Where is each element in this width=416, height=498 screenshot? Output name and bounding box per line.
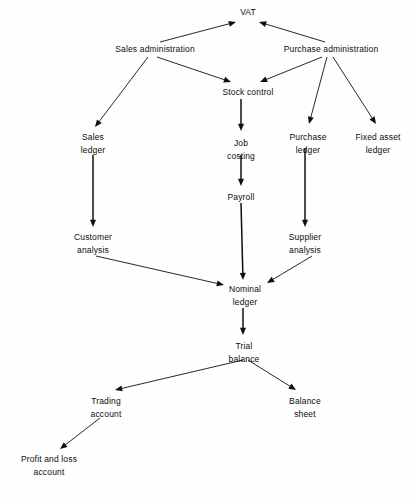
node-label-secondary: account xyxy=(21,466,77,479)
edge-sales-ledger-to-customer-analysis xyxy=(90,155,96,227)
node-fixed-asset-ledger[interactable]: Fixed assetledger xyxy=(355,131,400,156)
arrowhead-icon xyxy=(259,21,267,27)
edge-sales-admin-to-stock-control xyxy=(157,57,231,83)
node-label-primary: Purchase xyxy=(289,132,326,142)
edge-line xyxy=(333,57,373,119)
arrowhead-icon xyxy=(223,77,231,83)
arrowhead-icon xyxy=(302,220,308,227)
arrowhead-icon xyxy=(228,21,236,27)
arrowhead-icon xyxy=(240,328,246,335)
arrowhead-icon xyxy=(370,116,376,124)
arrowhead-icon xyxy=(288,384,296,390)
node-label-primary: Supplier xyxy=(289,232,321,242)
node-label-primary: Job xyxy=(234,138,248,148)
edge-line xyxy=(157,57,225,80)
arrowhead-icon xyxy=(95,119,102,127)
edge-line xyxy=(96,256,218,284)
node-label-secondary: account xyxy=(91,408,122,421)
edge-purchase-admin-to-vat xyxy=(259,21,325,42)
node-vat[interactable]: VAT xyxy=(240,6,256,19)
edge-trading-account-to-profit-loss xyxy=(60,418,100,449)
node-profit-loss-account[interactable]: Profit and lossaccount xyxy=(21,453,77,478)
edge-line xyxy=(160,24,230,42)
edge-trial-balance-to-trading-account xyxy=(115,360,243,391)
edge-line xyxy=(266,57,322,80)
node-purchase-ledger[interactable]: Purchaseledger xyxy=(289,131,326,156)
node-label-secondary: ledger xyxy=(229,296,261,309)
node-label-primary: Profit and loss xyxy=(21,454,77,464)
arrowhead-icon xyxy=(115,385,123,391)
edge-line xyxy=(241,203,243,274)
node-label-primary: Nominal xyxy=(229,284,261,294)
node-label-primary: Purchase administration xyxy=(284,44,379,54)
node-label-primary: Trial xyxy=(236,341,253,351)
node-label-primary: Sales administration xyxy=(115,44,195,54)
node-trial-balance[interactable]: Trialbalance xyxy=(229,340,260,365)
edge-customer-analysis-to-nominal-ledger xyxy=(96,256,224,286)
edge-supplier-analysis-to-nominal-ledger xyxy=(267,256,312,283)
node-purchase-admin[interactable]: Purchase administration xyxy=(284,43,379,56)
node-supplier-analysis[interactable]: Supplieranalysis xyxy=(289,231,321,256)
node-label-primary: Payroll xyxy=(227,192,254,202)
flow-diagram: VATSales administrationPurchase administ… xyxy=(0,0,416,498)
edge-line xyxy=(311,57,327,118)
edge-line xyxy=(273,256,312,280)
arrowhead-icon xyxy=(238,124,244,131)
node-label-secondary: ledger xyxy=(289,144,326,157)
arrowhead-icon xyxy=(240,273,246,280)
edge-purchase-admin-to-stock-control xyxy=(260,57,322,82)
node-label-primary: Fixed asset xyxy=(355,132,400,142)
diagram-edges-layer xyxy=(0,0,416,498)
node-sales-admin[interactable]: Sales administration xyxy=(115,43,195,56)
arrowhead-icon xyxy=(216,280,224,286)
node-label-secondary: analysis xyxy=(74,244,112,257)
node-customer-analysis[interactable]: Customeranalysis xyxy=(74,231,112,256)
node-nominal-ledger[interactable]: Nominalledger xyxy=(229,283,261,308)
node-payroll[interactable]: Payroll xyxy=(227,191,254,204)
node-trading-account[interactable]: Tradingaccount xyxy=(91,395,122,420)
edge-stock-control-to-job-costing xyxy=(238,99,244,131)
edge-line xyxy=(121,360,243,389)
edge-payroll-to-nominal-ledger xyxy=(240,203,246,280)
arrowhead-icon xyxy=(90,220,96,227)
edge-sales-admin-to-vat xyxy=(160,21,236,42)
arrowhead-icon xyxy=(238,179,244,186)
edge-nominal-ledger-to-trial-balance xyxy=(240,308,246,335)
node-sales-ledger[interactable]: Salesledger xyxy=(81,131,106,156)
node-label-primary: Balance xyxy=(289,396,321,406)
edge-line xyxy=(65,418,100,445)
node-label-secondary: sheet xyxy=(289,408,321,421)
node-balance-sheet[interactable]: Balancesheet xyxy=(289,395,321,420)
node-label-primary: Sales xyxy=(82,132,104,142)
node-label-primary: VAT xyxy=(240,7,256,17)
edge-purchase-admin-to-purchase-ledger xyxy=(308,57,327,124)
arrowhead-icon xyxy=(60,442,68,449)
node-label-primary: Trading xyxy=(91,396,121,406)
node-job-costing[interactable]: Jobcosting xyxy=(227,137,255,162)
node-label-secondary: ledger xyxy=(355,144,400,157)
edge-line xyxy=(265,24,325,42)
node-label-secondary: ledger xyxy=(81,144,106,157)
node-label-primary: Customer xyxy=(74,232,112,242)
arrowhead-icon xyxy=(308,116,314,124)
edge-line xyxy=(99,57,148,122)
arrowhead-icon xyxy=(260,77,268,83)
edge-purchase-ledger-to-supplier-analysis xyxy=(302,148,308,227)
node-stock-control[interactable]: Stock control xyxy=(222,86,273,99)
node-label-primary: Stock control xyxy=(222,87,273,97)
edge-sales-admin-to-sales-ledger xyxy=(95,57,148,127)
edge-purchase-admin-to-fixed-asset xyxy=(333,57,376,124)
node-label-secondary: balance xyxy=(229,353,260,366)
arrowhead-icon xyxy=(267,277,275,283)
node-label-secondary: costing xyxy=(227,150,255,163)
node-label-secondary: analysis xyxy=(289,244,321,257)
